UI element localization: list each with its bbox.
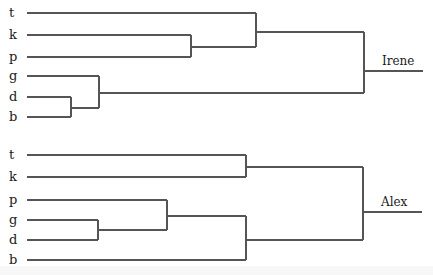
- leaf-label: p: [9, 192, 17, 207]
- root-label-irene: Irene: [382, 54, 414, 68]
- leaf-label: g: [9, 212, 17, 227]
- leaf-labels-alex: t k p g d b: [9, 147, 17, 267]
- leaf-label: t: [9, 5, 15, 20]
- leaf-label: k: [9, 27, 17, 42]
- root-label-alex: Alex: [380, 195, 408, 209]
- leaf-label: b: [9, 109, 17, 124]
- leaf-label: g: [9, 68, 17, 83]
- tree-alex: t k p g d b Alex: [9, 147, 422, 267]
- branches-alex: [27, 155, 422, 260]
- leaf-label: b: [9, 252, 17, 267]
- branches-irene: [27, 13, 423, 117]
- leaf-label: t: [9, 147, 15, 162]
- leaf-label: p: [9, 49, 17, 64]
- leaf-label: d: [9, 232, 17, 247]
- leaf-label: k: [9, 169, 17, 184]
- leaf-labels-irene: t k p g d b: [9, 5, 17, 124]
- tree-irene: t k p g d b Irene: [9, 5, 423, 124]
- dendrogram-canvas: t k p g d b Irene t k p g d b Alex: [0, 0, 433, 275]
- leaf-label: d: [9, 89, 17, 104]
